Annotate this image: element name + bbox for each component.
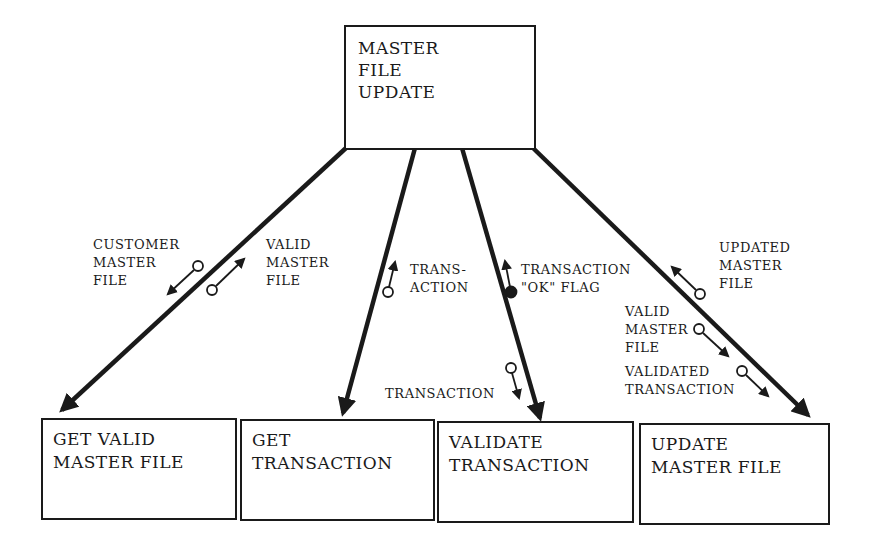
couple-label-customer-master-file: CUSTOMER MASTER FILE <box>93 236 180 290</box>
couple-ok-flag-icon <box>505 261 517 298</box>
couple-transaction-down-icon <box>506 363 519 398</box>
couple-updated-master-file-icon <box>672 267 705 299</box>
module-label: MASTER FILE UPDATE <box>358 37 439 103</box>
couple-label-valid-master-file-down: VALID MASTER FILE <box>625 303 688 357</box>
module-label: VALIDATE TRANSACTION <box>449 431 590 477</box>
module-update-master-file[interactable]: UPDATE MASTER FILE <box>639 423 830 525</box>
couple-valid-master-file-up-icon <box>207 259 244 295</box>
couple-label-validated-transaction: VALIDATED TRANSACTION <box>625 363 735 399</box>
call-line-get-transaction <box>343 148 415 413</box>
module-validate-transaction[interactable]: VALIDATE TRANSACTION <box>437 421 634 523</box>
module-label: GET TRANSACTION <box>252 429 393 475</box>
module-get-transaction[interactable]: GET TRANSACTION <box>240 419 435 521</box>
module-label: GET VALID MASTER FILE <box>53 428 184 474</box>
couple-label-transaction-down: TRANSACTION <box>385 385 495 403</box>
couple-valid-master-file-down-icon <box>694 324 728 356</box>
couple-label-transaction-up: TRANS- ACTION <box>410 261 469 297</box>
module-label: UPDATE MASTER FILE <box>651 433 782 479</box>
module-get-valid-master-file[interactable]: GET VALID MASTER FILE <box>41 418 237 520</box>
couple-label-ok-flag: TRANSACTION "OK" FLAG <box>521 261 631 297</box>
couple-label-valid-master-file-up: VALID MASTER FILE <box>266 236 329 290</box>
couple-label-updated-master-file: UPDATED MASTER FILE <box>719 239 791 293</box>
module-master-file-update[interactable]: MASTER FILE UPDATE <box>344 25 536 150</box>
